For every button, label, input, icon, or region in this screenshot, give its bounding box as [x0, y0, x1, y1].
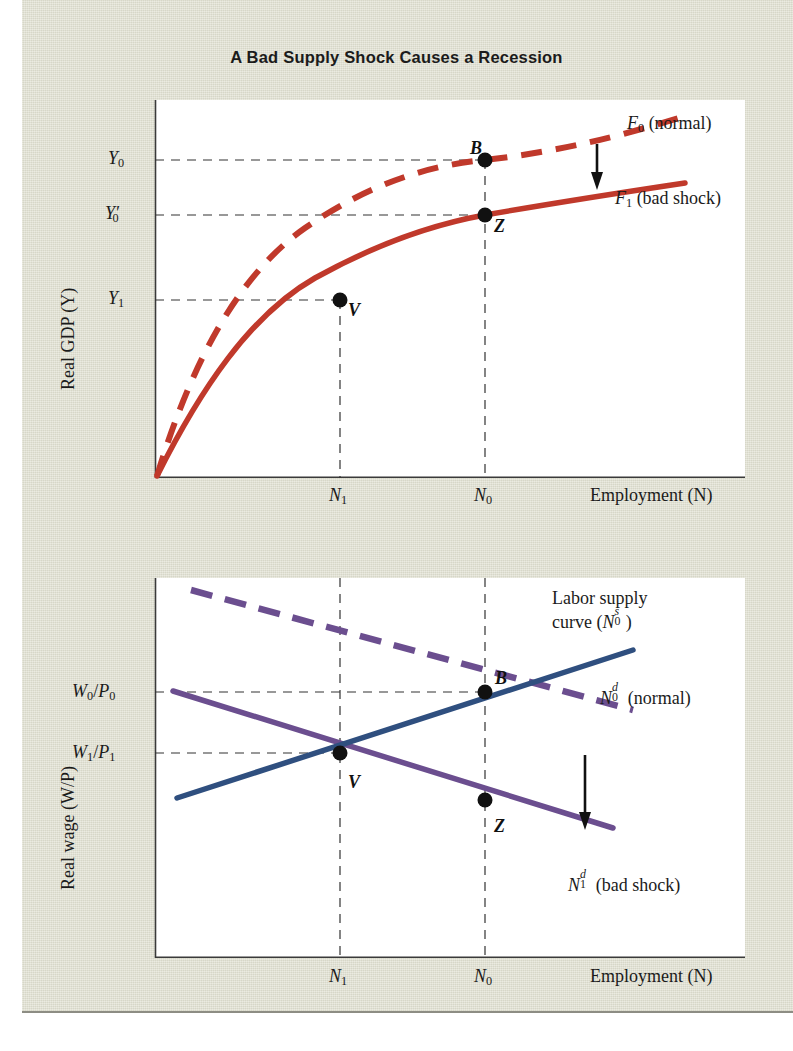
curve-label-Nd0: Nd0 (normal) [600, 686, 691, 710]
bottom-point-label-Z: Z [494, 816, 505, 837]
curve-label-labor-supply: Labor supply curve (Ns0) [552, 588, 647, 634]
point-V-dot [333, 293, 348, 308]
top-plot-svg [155, 100, 745, 478]
top-y-axis-label: Real GDP (Y) [58, 288, 79, 390]
bottom-point-label-B: B [495, 668, 507, 689]
top-ytick-Y0-prime: Y′0 [105, 203, 119, 226]
bottom-x-axis-label: Employment (N) [590, 966, 712, 987]
bottom-point-label-V: V [348, 772, 360, 793]
bottom-xtick-N1: N1 [329, 966, 347, 989]
curve-Nd1-bad-shock [173, 691, 613, 828]
top-plot-area [155, 100, 745, 478]
bottom-y-axis-label: Real wage (W/P) [58, 766, 79, 890]
bottom-xtick-N0: N0 [474, 966, 492, 989]
top-ytick-Y1: Y1 [108, 288, 124, 311]
top-shift-arrow [591, 144, 603, 190]
bottom-plot-area [155, 578, 745, 958]
curve-label-F1: F1 (bad shock) [615, 188, 721, 211]
top-point-label-Z: Z [494, 216, 505, 237]
curve-label-Nd1: Nd1 (bad shock) [568, 873, 680, 897]
curve-Ns0-labor-supply [177, 650, 633, 798]
top-xtick-N1: N1 [329, 485, 347, 508]
top-ytick-Y0: Y0 [108, 148, 124, 171]
figure-bottom-rule [22, 1011, 793, 1013]
curve-F1-bad-shock [157, 183, 685, 476]
figure-title: A Bad Supply Shock Causes a Recession [0, 48, 793, 67]
point-Z-dot [478, 208, 493, 223]
top-xtick-N0: N0 [474, 485, 492, 508]
bottom-point-Z-dot [478, 793, 493, 808]
top-point-label-B: B [470, 138, 482, 159]
curve-F0-normal [157, 116, 685, 476]
bottom-point-B-dot [478, 685, 493, 700]
bottom-ytick-W1P1: W1/P1 [72, 742, 115, 765]
bottom-point-V-dot [333, 746, 348, 761]
labor-supply-line1: Labor supply [552, 588, 647, 608]
bottom-plot-svg [155, 578, 745, 958]
top-point-label-V: V [348, 300, 360, 321]
bottom-ytick-W0P0: W0/P0 [72, 681, 115, 704]
curve-label-F0: F0 (normal) [627, 113, 712, 136]
top-x-axis-label: Employment (N) [590, 485, 712, 506]
